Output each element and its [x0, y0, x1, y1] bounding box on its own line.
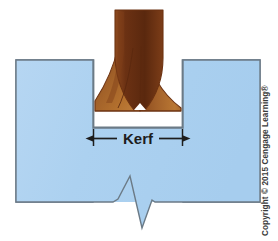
copyright-text: Copyright © 2015 Cengage Learning®: [261, 85, 270, 236]
kerf-diagram-svg: Kerf Copyright © 2015 Cengage Learning®: [0, 0, 278, 241]
kerf-label: Kerf: [123, 130, 154, 147]
kerf-diagram-figure: Kerf Copyright © 2015 Cengage Learning®: [0, 0, 278, 241]
copyright-notice: Copyright © 2015 Cengage Learning®: [261, 85, 270, 236]
